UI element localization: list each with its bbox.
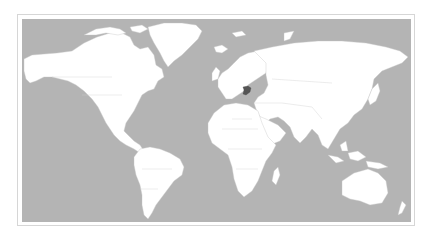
north-america: [24, 33, 164, 153]
europe: [218, 51, 268, 99]
world-map-svg: [22, 19, 411, 222]
svalbard: [232, 31, 246, 37]
novaya-zemlya: [284, 31, 294, 41]
syria-highlight: [243, 86, 251, 95]
greenland: [148, 23, 202, 67]
madagascar: [272, 167, 280, 185]
arctic-islands: [84, 25, 148, 35]
australia: [342, 169, 388, 205]
world-map: [22, 19, 411, 222]
iceland: [214, 45, 228, 53]
new-zealand: [398, 201, 406, 215]
south-america: [134, 147, 184, 219]
se-asia-islands: [328, 141, 388, 169]
